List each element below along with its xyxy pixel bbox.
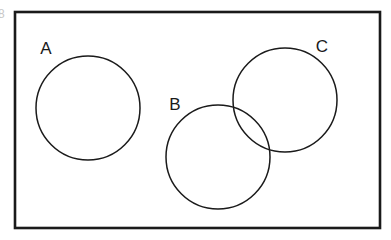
venn-diagram-canvas: 8 A B C <box>0 0 391 240</box>
venn-diagram-svg: 8 A B C <box>0 0 391 240</box>
set-label-a: A <box>40 39 52 58</box>
set-label-b: B <box>169 95 180 114</box>
edge-artifact-glyph: 8 <box>0 7 5 21</box>
set-label-c: C <box>316 37 328 56</box>
